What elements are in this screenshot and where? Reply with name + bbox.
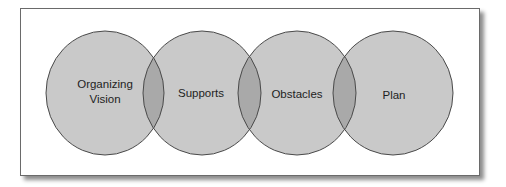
label-organizing-vision-line2: Vision xyxy=(89,93,120,105)
label-plan: Plan xyxy=(382,89,405,101)
venn-chain-diagram: Organizing Vision Supports Obstacles Pla… xyxy=(0,0,506,187)
label-organizing-vision-line1: Organizing xyxy=(77,78,133,90)
label-supports: Supports xyxy=(178,87,224,99)
label-obstacles: Obstacles xyxy=(271,88,322,100)
